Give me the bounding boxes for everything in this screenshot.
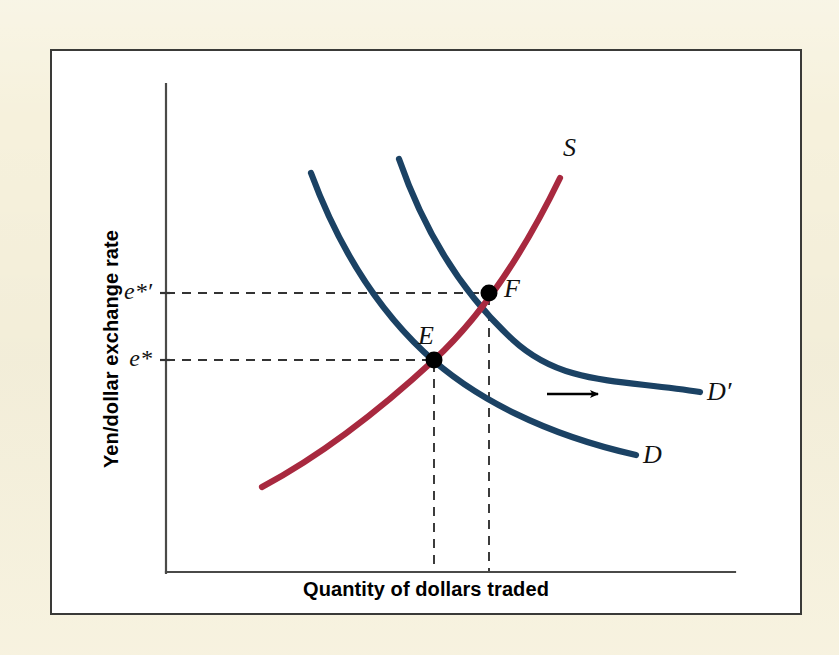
curve-label-supply: S (563, 133, 576, 163)
curve-label-demand-shifted: D′ (707, 377, 731, 407)
curve-label-demand: D (643, 440, 662, 470)
tick-label-e-star-prime: e*′ (84, 278, 152, 305)
x-axis-title: Quantity of dollars traded (303, 578, 549, 601)
tick-label-e-star: e* (84, 345, 152, 372)
point-label-f: F (504, 274, 520, 304)
figure-root: Yen/dollar exchange rate Quantity of dol… (0, 0, 839, 655)
point-label-e: E (418, 321, 434, 351)
